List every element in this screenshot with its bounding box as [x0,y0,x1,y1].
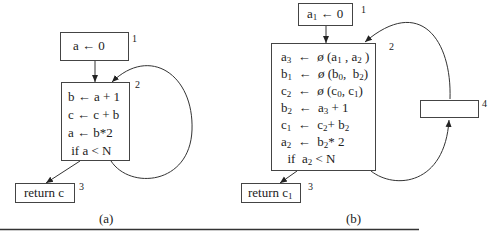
block-b-2-line-5: c1 ← c2+ b2 [281,116,349,134]
block-a-1: a ← 0 [60,32,129,61]
block-b-2-line-1: a3 ← ø (a1 , a2 ) [281,48,369,66]
caption-a: (a) [99,211,113,227]
caption-b: (b) [346,211,361,227]
block-b-1-code: a1 ← 0 [307,5,343,23]
block-b-2-number: 2 [389,41,394,52]
edge-b-4-2 [365,22,450,99]
edge-b-2-3 [280,171,297,183]
block-a-2-line-1: b ← a + 1 [68,88,120,106]
block-a-3: return c [15,183,75,203]
block-b-1-number: 1 [361,4,366,15]
block-a-1-number: 1 [132,33,137,44]
block-b-4-number: 4 [482,98,487,109]
block-a-1-code: a ← 0 [73,37,105,55]
block-b-2: a3 ← ø (a1 , a2 ) b1 ← ø (b0, b2) c2 ← ø… [271,43,376,171]
block-a-2-line-3: a ← b*2 [68,124,113,142]
block-b-2-line-2: b1 ← ø (b0, b2) [281,65,368,83]
block-b-2-line-4: b2 ← a3 + 1 [281,99,349,117]
block-b-2-line-6: a2 ← b2* 2 [281,133,345,151]
block-a-2-number: 2 [135,79,140,90]
block-b-1: a1 ← 0 [298,3,353,26]
block-b-2-line-7: if a2 < N [281,150,335,168]
block-a-3-code: return c [24,184,64,202]
block-a-2-line-2: c ← c + b [68,106,119,124]
block-b-3: return c1 [241,183,301,203]
block-b-2-line-3: c2 ← ø (c0, c1) [281,82,363,100]
block-a-2: b ← a + 1 c ← c + b a ← b*2 if a < N [61,82,130,161]
edge-b-2-4 [371,120,449,181]
block-a-3-number: 3 [79,181,84,192]
block-b-3-number: 3 [308,181,313,192]
block-a-2-line-4: if a < N [68,142,111,160]
block-b-3-code: return c1 [248,184,293,202]
block-b-4 [420,100,479,118]
edge-a-2-3 [46,161,80,183]
